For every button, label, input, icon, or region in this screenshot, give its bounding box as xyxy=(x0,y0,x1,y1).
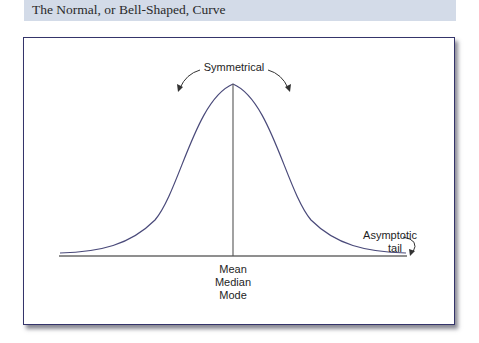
left-arrowhead-icon xyxy=(177,84,183,92)
symmetrical-label: Symmetrical xyxy=(203,60,265,74)
asymptotic-label: Asymptotic xyxy=(360,228,420,242)
mode-label: Mode xyxy=(203,288,263,302)
right-arrow-icon xyxy=(268,70,288,88)
tail-label: tail xyxy=(375,241,415,255)
median-label: Median xyxy=(203,275,263,289)
mean-label: Mean xyxy=(203,262,263,276)
right-arrowhead-icon xyxy=(285,84,291,92)
left-arrow-icon xyxy=(180,70,200,88)
